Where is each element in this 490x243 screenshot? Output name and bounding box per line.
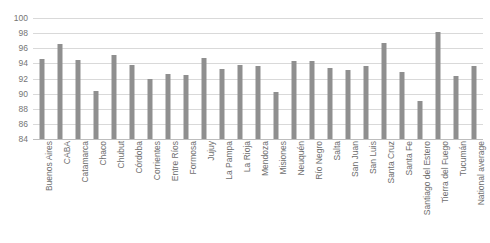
y-tick-label-86: 86 bbox=[0, 120, 28, 129]
bar[interactable] bbox=[148, 79, 153, 140]
bar[interactable] bbox=[184, 75, 189, 139]
x-tick-label: La Pampa bbox=[225, 141, 234, 180]
bar[interactable] bbox=[166, 74, 171, 139]
y-tick-label-90: 90 bbox=[0, 89, 28, 98]
bar-slot bbox=[447, 18, 465, 139]
x-tick-label: Chubut bbox=[117, 141, 126, 168]
bar-slot bbox=[123, 18, 141, 139]
bar-slot bbox=[87, 18, 105, 139]
bar[interactable] bbox=[256, 66, 261, 139]
bar-slot bbox=[159, 18, 177, 139]
bar[interactable] bbox=[76, 60, 81, 139]
bar-slot bbox=[429, 18, 447, 139]
bar[interactable] bbox=[58, 44, 63, 139]
x-tick-label: Neuquén bbox=[297, 141, 306, 176]
bar[interactable] bbox=[130, 65, 135, 139]
x-tick-label: Corrientes bbox=[153, 141, 162, 180]
bar[interactable] bbox=[472, 66, 477, 139]
x-tick-label: Río Negro bbox=[315, 141, 324, 180]
bar-slot bbox=[33, 18, 51, 139]
bar[interactable] bbox=[346, 70, 351, 139]
bar-slot bbox=[249, 18, 267, 139]
x-tick-label: CABA bbox=[63, 141, 72, 164]
bar-slot bbox=[213, 18, 231, 139]
bar[interactable] bbox=[454, 76, 459, 139]
bar[interactable] bbox=[238, 65, 243, 139]
bar-slot bbox=[141, 18, 159, 139]
bar[interactable] bbox=[40, 59, 45, 139]
x-tick-label: Tierra del Fuego bbox=[441, 141, 450, 203]
x-tick-label: Buenos Aires bbox=[45, 141, 54, 191]
bar-slot bbox=[231, 18, 249, 139]
x-tick-label: Córdoba bbox=[135, 141, 144, 174]
y-axis-tick-labels: 8486889092949698100 bbox=[0, 18, 28, 139]
x-tick-label: Salta bbox=[333, 141, 342, 160]
bar[interactable] bbox=[94, 91, 99, 139]
x-tick-label: Mendoza bbox=[261, 141, 270, 176]
bar[interactable] bbox=[382, 43, 387, 139]
bar[interactable] bbox=[310, 61, 315, 139]
bar[interactable] bbox=[220, 69, 225, 139]
bar-slot bbox=[303, 18, 321, 139]
x-tick-label: Tucumán bbox=[459, 141, 468, 176]
x-tick-label: Catamarca bbox=[81, 141, 90, 183]
bar-slot bbox=[285, 18, 303, 139]
bar-slot bbox=[177, 18, 195, 139]
x-tick-label: Santa Cruz bbox=[387, 141, 396, 184]
x-tick-label: Entre Ríos bbox=[171, 141, 180, 181]
x-tick-label: Santiago del Estero bbox=[423, 141, 432, 215]
x-tick-label: San Juan bbox=[351, 141, 360, 177]
bar-slot bbox=[393, 18, 411, 139]
bar[interactable] bbox=[112, 55, 117, 139]
bar-slot bbox=[267, 18, 285, 139]
x-tick-label: Santa Fe bbox=[405, 141, 414, 176]
x-tick-label: San Luis bbox=[369, 141, 378, 174]
bar-series bbox=[33, 18, 483, 139]
y-tick-label-92: 92 bbox=[0, 74, 28, 83]
bar-slot bbox=[105, 18, 123, 139]
bar[interactable] bbox=[436, 32, 441, 139]
bar-slot bbox=[375, 18, 393, 139]
bar-slot bbox=[339, 18, 357, 139]
bar[interactable] bbox=[274, 92, 279, 139]
bar[interactable] bbox=[328, 68, 333, 139]
bar-slot bbox=[465, 18, 483, 139]
x-tick-label: Chaco bbox=[99, 141, 108, 166]
y-tick-label-98: 98 bbox=[0, 29, 28, 38]
bar[interactable] bbox=[364, 66, 369, 139]
bar-slot bbox=[411, 18, 429, 139]
y-tick-label-88: 88 bbox=[0, 105, 28, 114]
x-tick-label: Jujuy bbox=[207, 141, 216, 161]
bar-slot bbox=[321, 18, 339, 139]
x-tick-label: Formosa bbox=[189, 141, 198, 175]
bar-slot bbox=[195, 18, 213, 139]
bar[interactable] bbox=[292, 61, 297, 139]
x-tick-label: Misiones bbox=[279, 141, 288, 175]
bar[interactable] bbox=[202, 58, 207, 139]
y-tick-label-100: 100 bbox=[0, 14, 28, 23]
x-tick-label: National average bbox=[477, 141, 486, 205]
bar-slot bbox=[51, 18, 69, 139]
y-tick-label-96: 96 bbox=[0, 44, 28, 53]
bar-chart: 8486889092949698100 Buenos AiresCABACata… bbox=[0, 0, 490, 243]
x-axis-tick-labels: Buenos AiresCABACatamarcaChacoChubutCórd… bbox=[33, 141, 483, 241]
y-tick-label-84: 84 bbox=[0, 135, 28, 144]
x-tick-label: La Rioja bbox=[243, 141, 252, 172]
y-tick-label-94: 94 bbox=[0, 59, 28, 68]
bar[interactable] bbox=[418, 101, 423, 139]
plot-area bbox=[33, 18, 483, 139]
bar[interactable] bbox=[400, 72, 405, 139]
bar-slot bbox=[357, 18, 375, 139]
bar-slot bbox=[69, 18, 87, 139]
